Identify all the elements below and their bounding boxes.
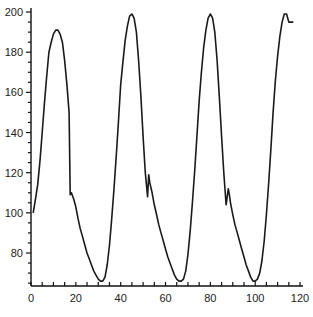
y-tick-label: 120: [5, 167, 23, 179]
x-tick-label: 0: [28, 292, 34, 304]
x-tick-label: 40: [115, 292, 127, 304]
x-tick-label: 100: [246, 292, 264, 304]
y-tick-label: 100: [5, 207, 23, 219]
y-tick-label: 80: [11, 247, 23, 259]
x-tick-label: 80: [204, 292, 216, 304]
axis-ticks: [26, 12, 300, 286]
y-tick-label: 200: [5, 6, 23, 18]
axes: [31, 8, 303, 286]
y-tick-label: 180: [5, 46, 23, 58]
line-chart: 80100120140160180200020406080100120: [0, 0, 313, 317]
x-tick-label: 20: [70, 292, 82, 304]
tick-labels: 80100120140160180200020406080100120: [5, 6, 310, 304]
x-tick-label: 60: [159, 292, 171, 304]
data-series: [33, 14, 293, 281]
y-tick-label: 160: [5, 86, 23, 98]
x-tick-label: 120: [291, 292, 309, 304]
y-tick-label: 140: [5, 127, 23, 139]
series-line: [33, 14, 293, 281]
